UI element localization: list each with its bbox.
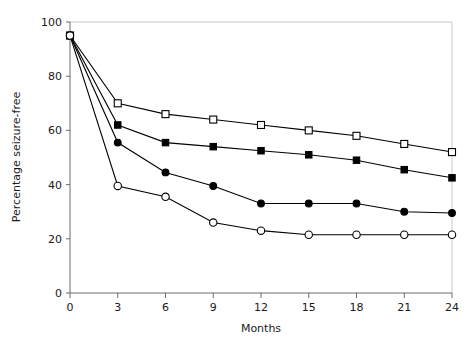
y-tick-label: 60 xyxy=(48,124,62,137)
x-tick-label: 6 xyxy=(162,301,169,314)
data-point-filled-square xyxy=(353,157,359,163)
series-line xyxy=(70,36,452,178)
y-tick-label: 0 xyxy=(55,287,62,300)
data-point-open-circle xyxy=(401,231,408,238)
chart-container: 020406080100 03691215182124 Months Perce… xyxy=(0,0,473,347)
data-point-filled-circle xyxy=(258,200,265,207)
data-point-open-square xyxy=(353,132,360,139)
x-axis: 03691215182124 xyxy=(67,293,460,314)
x-tick-group: 03691215182124 xyxy=(67,293,460,314)
y-tick-label: 20 xyxy=(48,233,62,246)
series-open-square xyxy=(67,32,456,156)
data-point-open-circle xyxy=(162,193,169,200)
x-tick-label: 0 xyxy=(67,301,74,314)
data-point-filled-square xyxy=(401,166,407,172)
data-point-filled-square xyxy=(449,175,455,181)
series-group xyxy=(66,32,455,239)
data-point-open-square xyxy=(162,111,169,118)
y-tick-label: 40 xyxy=(48,179,62,192)
seizure-free-line-chart: 020406080100 03691215182124 Months Perce… xyxy=(0,0,473,347)
x-tick-label: 3 xyxy=(114,301,121,314)
data-point-open-circle xyxy=(353,231,360,238)
data-point-open-circle xyxy=(257,227,264,234)
data-point-open-square xyxy=(401,140,408,147)
series-filled-square xyxy=(67,32,455,181)
data-point-filled-circle xyxy=(449,210,456,217)
data-point-open-square xyxy=(210,116,217,123)
x-tick-label: 15 xyxy=(302,301,316,314)
y-tick-label: 80 xyxy=(48,70,62,83)
data-point-filled-square xyxy=(162,139,168,145)
data-point-filled-circle xyxy=(401,208,408,215)
x-tick-label: 18 xyxy=(350,301,364,314)
data-point-filled-square xyxy=(210,143,216,149)
data-point-open-square xyxy=(305,127,312,134)
data-point-filled-square xyxy=(115,122,121,128)
y-axis-title: Percentage seizure-free xyxy=(10,92,23,223)
x-tick-label: 24 xyxy=(445,301,459,314)
y-axis: 020406080100 xyxy=(41,16,70,300)
data-point-filled-circle xyxy=(114,139,121,146)
y-tick-label: 100 xyxy=(41,16,62,29)
data-point-open-circle xyxy=(66,32,73,39)
data-point-open-square xyxy=(114,100,121,107)
x-tick-label: 21 xyxy=(397,301,411,314)
series-line xyxy=(70,36,452,153)
data-point-open-circle xyxy=(114,182,121,189)
x-axis-title: Months xyxy=(241,322,281,335)
plot-frame xyxy=(70,22,452,293)
data-point-filled-circle xyxy=(210,183,217,190)
data-point-filled-circle xyxy=(305,200,312,207)
data-point-filled-square xyxy=(258,148,264,154)
data-point-filled-square xyxy=(306,152,312,158)
data-point-open-circle xyxy=(210,219,217,226)
y-tick-group: 020406080100 xyxy=(41,16,70,300)
data-point-open-square xyxy=(258,121,265,128)
data-point-open-square xyxy=(449,149,456,156)
data-point-open-circle xyxy=(305,231,312,238)
data-point-open-circle xyxy=(448,231,455,238)
data-point-filled-circle xyxy=(162,169,169,176)
x-tick-label: 12 xyxy=(254,301,268,314)
data-point-filled-circle xyxy=(353,200,360,207)
x-tick-label: 9 xyxy=(210,301,217,314)
